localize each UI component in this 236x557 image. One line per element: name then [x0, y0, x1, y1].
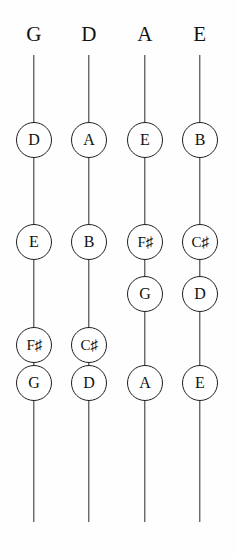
note-marker[interactable]: B: [182, 122, 218, 158]
string-note-diagram: GDEF♯GDABC♯DAEF♯GAEBC♯DE: [0, 0, 236, 557]
note-marker[interactable]: B: [71, 224, 107, 260]
note-marker[interactable]: G: [16, 365, 52, 401]
note-label: A: [139, 375, 151, 391]
note-label: B: [195, 132, 206, 148]
note-label: F♯: [26, 337, 41, 353]
note-label: D: [83, 375, 95, 391]
note-label: G: [139, 286, 151, 302]
note-marker[interactable]: E: [16, 224, 52, 260]
note-label: E: [140, 132, 150, 148]
note-label: B: [84, 234, 95, 250]
string-header-label: E: [193, 21, 206, 47]
note-marker[interactable]: C♯: [71, 327, 107, 363]
note-label: C♯: [192, 234, 209, 250]
note-marker[interactable]: C♯: [182, 224, 218, 260]
note-label: E: [195, 375, 205, 391]
note-label: G: [28, 375, 40, 391]
note-marker[interactable]: D: [16, 122, 52, 158]
note-marker[interactable]: G: [127, 276, 163, 312]
note-label: E: [29, 234, 39, 250]
note-label: A: [83, 132, 95, 148]
note-label: D: [28, 132, 40, 148]
note-marker[interactable]: A: [71, 122, 107, 158]
note-marker[interactable]: F♯: [127, 224, 163, 260]
note-marker[interactable]: F♯: [16, 327, 52, 363]
note-marker[interactable]: E: [127, 122, 163, 158]
note-marker[interactable]: D: [182, 276, 218, 312]
string-header-label: D: [81, 21, 97, 47]
note-marker[interactable]: E: [182, 365, 218, 401]
note-label: F♯: [137, 234, 152, 250]
note-label: D: [194, 286, 206, 302]
note-marker[interactable]: D: [71, 365, 107, 401]
string-header-label: G: [26, 21, 42, 47]
note-marker[interactable]: A: [127, 365, 163, 401]
note-label: C♯: [81, 337, 98, 353]
string-header-label: A: [137, 21, 153, 47]
